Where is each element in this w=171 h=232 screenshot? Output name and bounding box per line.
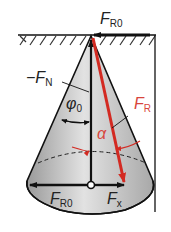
label-fr0-bottom: FR0	[50, 191, 73, 209]
label-minus-fn: −FN	[26, 70, 52, 88]
label-phi0: φ0	[66, 96, 82, 114]
label-alpha: α	[97, 126, 106, 142]
diagram-graphics	[0, 0, 171, 232]
cone-friction-diagram: FR0 −FN φ0 FR α FR0 Fx	[0, 0, 171, 232]
label-fr: FR	[134, 96, 151, 114]
pivot-point	[88, 182, 95, 189]
label-fr0-top: FR0	[100, 11, 123, 29]
label-fx: Fx	[107, 191, 122, 209]
